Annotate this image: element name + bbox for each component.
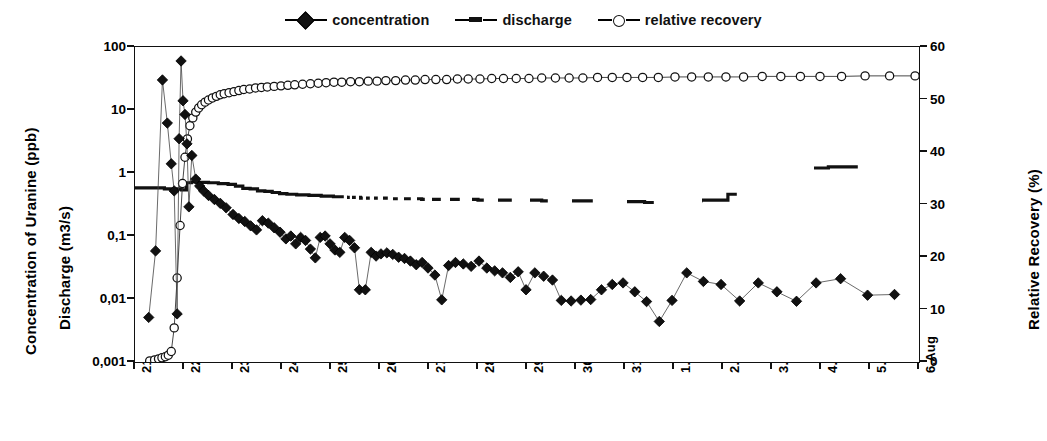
relative-recovery-marker	[551, 74, 559, 82]
relative-recovery-marker	[525, 74, 533, 82]
dash-gap	[701, 47, 702, 362]
x-tick-mark	[868, 362, 870, 369]
relative-recovery-marker	[722, 73, 730, 81]
relative-recovery-marker	[837, 72, 845, 80]
relative-recovery-marker	[499, 74, 507, 82]
x-tick-mark	[721, 362, 723, 369]
concentration-marker	[172, 309, 182, 319]
relative-recovery-marker	[364, 77, 372, 85]
plot-canvas	[135, 47, 919, 362]
y2-tick-mark	[920, 98, 927, 100]
x-tick-mark	[819, 362, 821, 369]
relative-recovery-marker	[330, 78, 338, 86]
relative-recovery-marker	[306, 80, 314, 88]
y2-tick-mark	[920, 360, 927, 362]
dash-gap	[449, 47, 450, 362]
relative-recovery-marker	[411, 76, 419, 84]
relative-recovery-marker	[355, 78, 363, 86]
concentration-marker	[144, 312, 154, 322]
y-tick-mark	[127, 45, 134, 47]
relative-recovery-marker	[512, 74, 520, 82]
relative-recovery-marker	[739, 73, 747, 81]
y2-tick-mark	[920, 255, 927, 257]
relative-recovery-marker	[911, 72, 919, 80]
y2-tick-mark	[920, 45, 927, 47]
concentration-marker	[162, 118, 172, 128]
discharge-dash-gaps	[344, 47, 919, 362]
relative-recovery-marker	[291, 81, 299, 89]
x-tick-mark	[133, 362, 135, 369]
concentration-marker	[310, 253, 320, 263]
concentration-marker	[176, 56, 186, 66]
x-tick-mark	[329, 362, 331, 369]
relative-recovery-marker	[443, 75, 451, 83]
x-tick-label: 6.Aug	[923, 336, 938, 373]
relative-recovery-marker	[538, 74, 546, 82]
relative-recovery-marker	[322, 79, 330, 87]
dash-gap	[497, 47, 498, 362]
relative-recovery-marker	[565, 74, 573, 82]
dash-gap	[351, 47, 352, 362]
concentration-marker	[835, 274, 845, 284]
x-tick-mark	[280, 362, 282, 369]
relative-recovery-marker	[178, 179, 186, 187]
concentration-marker	[169, 186, 179, 196]
dash-gap	[431, 47, 432, 362]
dash-gap	[813, 47, 814, 362]
x-tick-mark	[427, 362, 429, 369]
relative-recovery-marker	[861, 72, 869, 80]
x-tick-mark	[770, 362, 772, 369]
dash-gap	[373, 47, 374, 362]
relative-recovery-marker	[382, 77, 390, 85]
x-tick-mark	[182, 362, 184, 369]
relative-recovery-marker	[298, 80, 306, 88]
tracer-breakthrough-chart: concentration discharge relative recover…	[0, 0, 1047, 441]
dash-gap	[571, 47, 572, 362]
relative-recovery-marker	[688, 73, 696, 81]
relative-recovery-marker	[704, 73, 712, 81]
relative-recovery-marker	[186, 122, 194, 130]
relative-recovery-marker	[314, 79, 322, 87]
relative-recovery-marker	[579, 74, 587, 82]
relative-recovery-marker	[593, 73, 601, 81]
relative-recovery-marker	[476, 75, 484, 83]
plot-area	[134, 46, 920, 363]
dash-gap	[382, 47, 383, 362]
concentration-marker	[184, 202, 194, 212]
y-tick-mark	[127, 171, 134, 173]
relative-recovery-marker	[401, 76, 409, 84]
relative-recovery-marker	[639, 73, 647, 81]
relative-recovery-marker	[654, 73, 662, 81]
relative-recovery-marker	[432, 75, 440, 83]
relative-recovery-marker	[170, 324, 178, 332]
dash-gap	[365, 47, 366, 362]
y-tick-mark	[127, 297, 134, 299]
relative-recovery-marker	[623, 73, 631, 81]
dash-gap	[416, 47, 417, 362]
dash-gap	[358, 47, 359, 362]
relative-recovery-marker	[758, 72, 766, 80]
relative-recovery-marker	[671, 73, 679, 81]
y-tick-mark	[127, 234, 134, 236]
concentration-marker	[641, 296, 651, 306]
relative-recovery-marker	[464, 75, 472, 83]
y2-tick-mark	[920, 203, 927, 205]
relative-recovery-marker	[886, 72, 894, 80]
relative-recovery-marker	[167, 347, 175, 355]
concentration-marker	[178, 96, 188, 106]
relative-recovery-marker	[816, 72, 824, 80]
x-tick-mark	[917, 362, 919, 369]
concentration-marker	[166, 159, 176, 169]
concentration-marker	[157, 75, 167, 85]
dash-gap	[346, 47, 347, 362]
x-tick-mark	[672, 362, 674, 369]
dash-gap	[529, 47, 530, 362]
concentration-marker	[360, 285, 370, 295]
dash-gap	[471, 47, 472, 362]
relative-recovery-marker	[373, 77, 381, 85]
relative-recovery-marker	[392, 77, 400, 85]
dash-gap	[626, 47, 627, 362]
x-tick-mark	[623, 362, 625, 369]
concentration-marker	[150, 246, 160, 256]
relative-recovery-marker	[347, 78, 355, 86]
